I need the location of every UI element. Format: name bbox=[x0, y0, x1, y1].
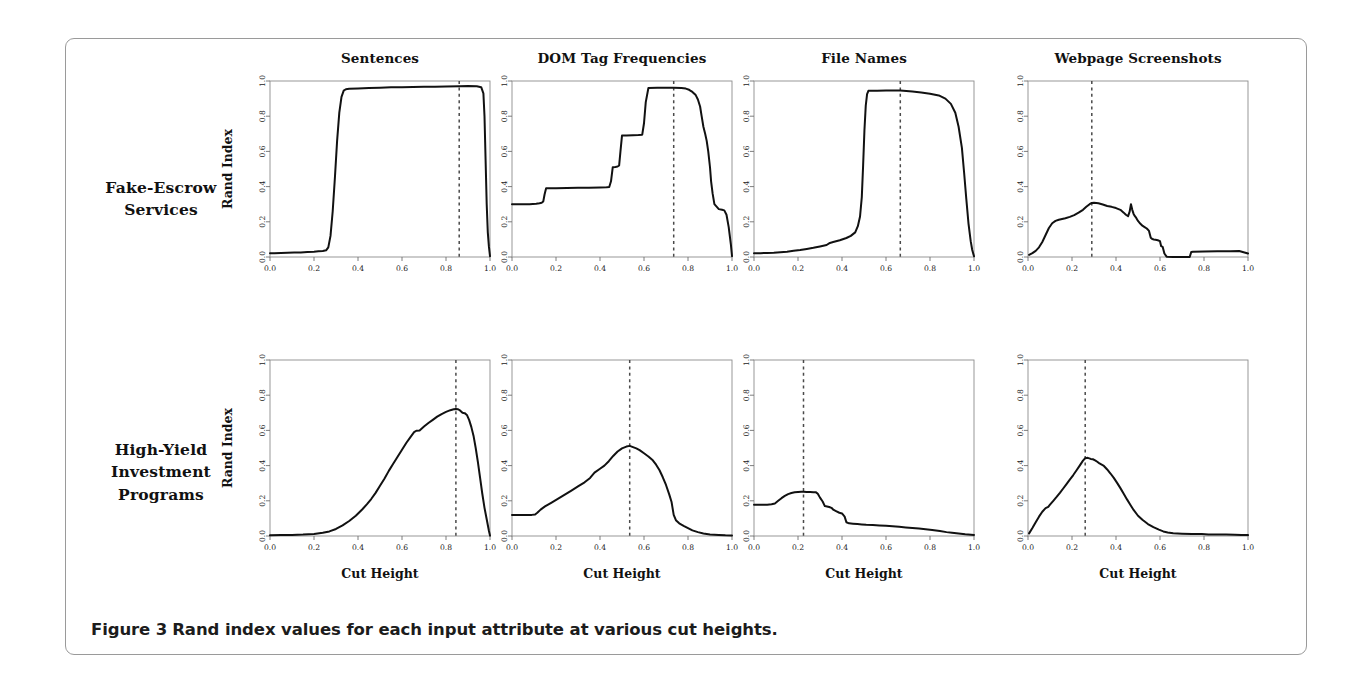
y-tick-label: 0.0 bbox=[1016, 530, 1025, 542]
column-title: Sentences bbox=[341, 50, 419, 66]
y-tick-label: 0.6 bbox=[742, 145, 751, 157]
x-tick-label: 0.8 bbox=[682, 264, 694, 273]
y-tick-label: 0.4 bbox=[1016, 459, 1025, 471]
x-tick-label: 0.6 bbox=[396, 264, 408, 273]
x-tick-label: 0.6 bbox=[880, 264, 892, 273]
x-tick-label: 1.0 bbox=[1242, 264, 1254, 273]
panel-file-names-high-yield: 0.00.20.40.60.81.00.00.20.40.60.81.0Cut … bbox=[702, 326, 992, 588]
x-tick-label: 1.0 bbox=[1242, 543, 1254, 552]
chart-svg: Webpage Screenshots0.00.20.40.60.81.00.0… bbox=[976, 47, 1266, 309]
x-tick-label: 0.8 bbox=[1198, 543, 1210, 552]
x-tick-label: 0.4 bbox=[1110, 264, 1122, 273]
panel-webpage-screenshots-fake-escrow: Webpage Screenshots0.00.20.40.60.81.00.0… bbox=[976, 47, 1266, 309]
plot-box bbox=[754, 81, 974, 257]
y-tick-label: 0.2 bbox=[742, 495, 751, 507]
y-tick-label: 0.8 bbox=[258, 389, 267, 401]
x-tick-label: 0.8 bbox=[682, 543, 694, 552]
x-tick-label: 0.0 bbox=[264, 543, 276, 552]
y-tick-label: 0.4 bbox=[742, 459, 751, 471]
x-tick-label: 0.2 bbox=[792, 543, 804, 552]
x-tick-label: 0.0 bbox=[1022, 264, 1034, 273]
y-tick-label: 0.0 bbox=[258, 530, 267, 542]
x-tick-label: 0.2 bbox=[1066, 264, 1078, 273]
x-tick-label: 0.6 bbox=[638, 543, 650, 552]
chart-svg: 0.00.20.40.60.81.00.00.20.40.60.81.0Cut … bbox=[702, 326, 992, 588]
figure-root: Fake-Escrow Services High-Yield Investme… bbox=[0, 0, 1372, 699]
y-tick-label: 0.2 bbox=[1016, 216, 1025, 228]
data-curve bbox=[1029, 458, 1248, 535]
figure-card: Fake-Escrow Services High-Yield Investme… bbox=[65, 38, 1307, 655]
x-axis-title: Cut Height bbox=[1099, 566, 1177, 581]
y-tick-label: 1.0 bbox=[1016, 75, 1025, 87]
data-curve bbox=[754, 91, 974, 257]
x-tick-label: 0.0 bbox=[506, 264, 518, 273]
y-tick-label: 1.0 bbox=[742, 354, 751, 366]
y-tick-label: 0.0 bbox=[500, 530, 509, 542]
y-tick-label: 0.0 bbox=[742, 251, 751, 263]
x-tick-label: 0.2 bbox=[792, 264, 804, 273]
x-tick-label: 0.4 bbox=[836, 264, 848, 273]
data-curve bbox=[512, 446, 732, 536]
x-tick-label: 0.2 bbox=[308, 543, 320, 552]
x-axis-title: Cut Height bbox=[341, 566, 419, 581]
data-curve bbox=[1029, 203, 1248, 257]
y-tick-label: 0.0 bbox=[742, 530, 751, 542]
data-curve bbox=[270, 409, 490, 536]
y-tick-label: 0.2 bbox=[258, 216, 267, 228]
x-tick-label: 0.6 bbox=[1154, 264, 1166, 273]
x-tick-label: 0.8 bbox=[924, 264, 936, 273]
x-tick-label: 0.2 bbox=[308, 264, 320, 273]
y-tick-label: 0.8 bbox=[742, 389, 751, 401]
figure-caption: Figure 3Rand index values for each input… bbox=[66, 620, 778, 639]
y-tick-label: 0.8 bbox=[500, 389, 509, 401]
column-title: DOM Tag Frequencies bbox=[538, 50, 707, 66]
y-tick-label: 0.6 bbox=[1016, 145, 1025, 157]
x-tick-label: 0.0 bbox=[748, 264, 760, 273]
plot-box bbox=[270, 360, 490, 536]
data-curve bbox=[754, 492, 974, 535]
y-tick-label: 0.4 bbox=[500, 180, 509, 192]
x-tick-label: 0.8 bbox=[440, 543, 452, 552]
y-tick-label: 1.0 bbox=[742, 75, 751, 87]
y-tick-label: 0.8 bbox=[500, 110, 509, 122]
y-tick-label: 0.6 bbox=[258, 145, 267, 157]
y-tick-label: 0.6 bbox=[742, 424, 751, 436]
y-tick-label: 0.2 bbox=[742, 216, 751, 228]
x-axis-title: Cut Height bbox=[825, 566, 903, 581]
plot-box bbox=[754, 360, 974, 536]
y-tick-label: 0.2 bbox=[500, 495, 509, 507]
y-tick-label: 0.2 bbox=[500, 216, 509, 228]
plot-box bbox=[1028, 81, 1248, 257]
y-axis-title: Rand Index bbox=[220, 407, 235, 488]
x-tick-label: 0.4 bbox=[1110, 543, 1122, 552]
x-tick-label: 0.4 bbox=[352, 543, 364, 552]
y-tick-label: 0.4 bbox=[258, 459, 267, 471]
panel-grid: Fake-Escrow Services High-Yield Investme… bbox=[66, 39, 1308, 599]
plot-box bbox=[1028, 360, 1248, 536]
y-tick-label: 0.0 bbox=[1016, 251, 1025, 263]
y-tick-label: 0.6 bbox=[1016, 424, 1025, 436]
y-tick-label: 0.6 bbox=[500, 145, 509, 157]
x-axis-title: Cut Height bbox=[583, 566, 661, 581]
y-tick-label: 0.4 bbox=[258, 180, 267, 192]
x-tick-label: 0.6 bbox=[1154, 543, 1166, 552]
x-tick-label: 0.6 bbox=[880, 543, 892, 552]
y-tick-label: 0.4 bbox=[1016, 180, 1025, 192]
column-title: File Names bbox=[821, 50, 907, 66]
panel-file-names-fake-escrow: File Names0.00.20.40.60.81.00.00.20.40.6… bbox=[702, 47, 992, 309]
plot-box bbox=[270, 81, 490, 257]
x-tick-label: 0.2 bbox=[1066, 543, 1078, 552]
y-tick-label: 0.6 bbox=[258, 424, 267, 436]
y-tick-label: 0.8 bbox=[1016, 110, 1025, 122]
plot-box bbox=[512, 81, 732, 257]
y-tick-label: 0.4 bbox=[742, 180, 751, 192]
chart-svg: File Names0.00.20.40.60.81.00.00.20.40.6… bbox=[702, 47, 992, 309]
x-tick-label: 0.8 bbox=[924, 543, 936, 552]
y-tick-label: 0.8 bbox=[258, 110, 267, 122]
y-tick-label: 0.0 bbox=[500, 251, 509, 263]
x-tick-label: 0.0 bbox=[506, 543, 518, 552]
x-tick-label: 0.2 bbox=[550, 543, 562, 552]
y-tick-label: 0.2 bbox=[258, 495, 267, 507]
x-tick-label: 0.4 bbox=[836, 543, 848, 552]
x-tick-label: 0.0 bbox=[748, 543, 760, 552]
